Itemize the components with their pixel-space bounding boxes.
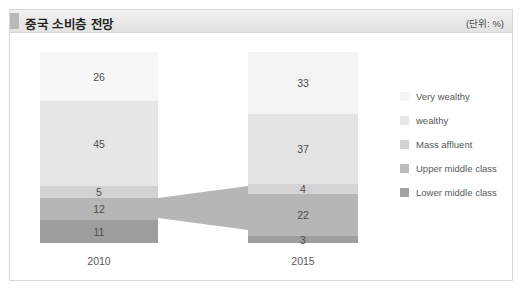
chart-legend: Very wealthy wealthy Mass affluent Upper… xyxy=(400,86,510,206)
segment-value: 37 xyxy=(248,144,358,155)
segment-2010-upper-middle-class[interactable]: 12 xyxy=(40,198,158,220)
chart-figure: 중국 소비층 전망 (단위: %) 26 45 5 12 11 xyxy=(0,0,522,295)
segment-2015-mass-affluent[interactable]: 4 xyxy=(248,184,358,194)
legend-item-mass-affluent[interactable]: Mass affluent xyxy=(400,134,510,154)
bar-2015[interactable]: 33 37 4 22 3 xyxy=(248,52,358,243)
segment-2015-very-wealthy[interactable]: 33 xyxy=(248,52,358,114)
legend-item-lower-middle-class[interactable]: Lower middle class xyxy=(400,182,510,202)
ribbon-upper-middle-class xyxy=(158,186,248,230)
segment-2010-very-wealthy[interactable]: 26 xyxy=(40,52,158,101)
legend-swatch-icon xyxy=(400,140,409,149)
segment-2015-lower-middle-class[interactable]: 3 xyxy=(248,236,358,243)
legend-item-wealthy[interactable]: wealthy xyxy=(400,110,510,130)
segment-value: 26 xyxy=(40,71,158,82)
bar-2010[interactable]: 26 45 5 12 11 xyxy=(40,52,158,243)
segment-2015-wealthy[interactable]: 37 xyxy=(248,114,358,184)
legend-label: Upper middle class xyxy=(416,163,497,174)
segment-2010-lower-middle-class[interactable]: 11 xyxy=(40,220,158,243)
segment-value: 4 xyxy=(248,184,358,195)
unit-label: (단위: %) xyxy=(466,16,504,30)
segment-value: 22 xyxy=(248,210,358,221)
legend-swatch-icon xyxy=(400,92,409,101)
segment-value: 11 xyxy=(40,226,158,237)
segment-value: 5 xyxy=(40,187,158,198)
legend-swatch-icon xyxy=(400,116,409,125)
segment-value: 45 xyxy=(40,138,158,149)
axis-label-2015: 2015 xyxy=(248,255,358,267)
legend-item-very-wealthy[interactable]: Very wealthy xyxy=(400,86,510,106)
page-title: 중국 소비층 전망 xyxy=(25,14,114,33)
segment-value: 33 xyxy=(248,78,358,89)
legend-swatch-icon xyxy=(400,164,409,173)
legend-swatch-icon xyxy=(400,188,409,197)
legend-item-upper-middle-class[interactable]: Upper middle class xyxy=(400,158,510,178)
legend-label: Very wealthy xyxy=(416,91,470,102)
segment-value: 12 xyxy=(40,204,158,215)
legend-label: wealthy xyxy=(416,115,448,126)
segment-2010-wealthy[interactable]: 45 xyxy=(40,101,158,186)
segment-2010-mass-affluent[interactable]: 5 xyxy=(40,186,158,198)
legend-label: Lower middle class xyxy=(416,187,497,198)
axis-label-2010: 2010 xyxy=(40,255,158,267)
plot-area: 26 45 5 12 11 33 37 4 xyxy=(10,34,512,280)
segment-2015-upper-middle-class[interactable]: 22 xyxy=(248,194,358,236)
segment-value: 3 xyxy=(248,234,358,245)
title-accent-bar xyxy=(10,13,19,29)
legend-label: Mass affluent xyxy=(416,139,472,150)
